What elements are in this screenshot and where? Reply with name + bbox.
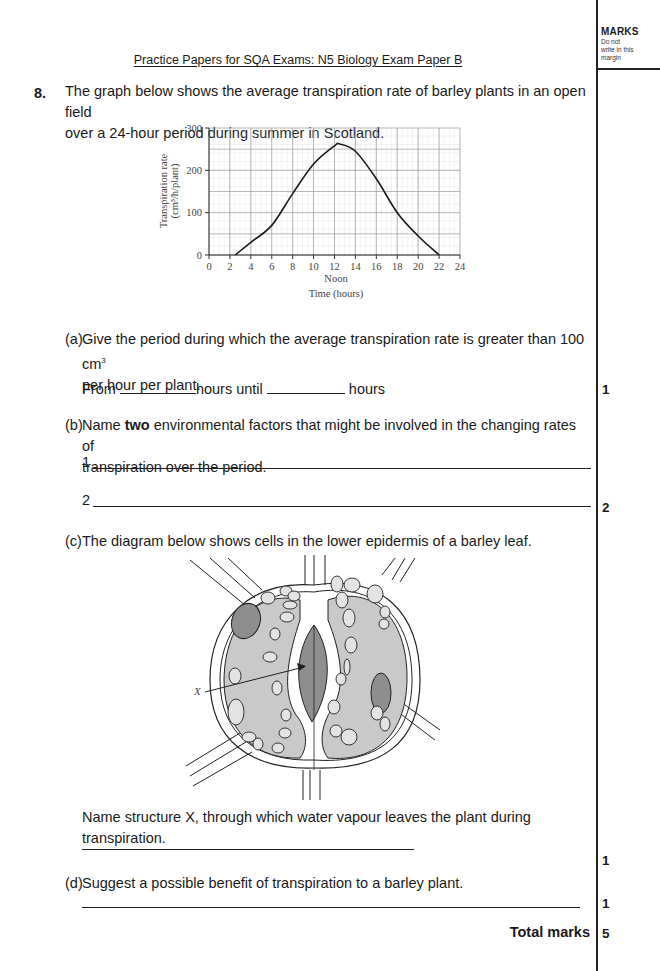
svg-text:0: 0 — [206, 261, 211, 272]
x-axis-ticks: 024681012141618202224 — [206, 255, 466, 272]
svg-text:16: 16 — [371, 261, 382, 272]
svg-text:22: 22 — [434, 261, 445, 272]
end-hours-input[interactable] — [267, 379, 345, 394]
part-b-text: Name — [82, 417, 125, 433]
svg-text:100: 100 — [186, 207, 202, 218]
answer-1-line[interactable] — [93, 468, 591, 469]
part-b-label: (b) — [65, 417, 83, 433]
stem-line: The graph below shows the average transp… — [65, 81, 595, 123]
svg-text:2: 2 — [227, 261, 232, 272]
answer-1-number: 1 — [82, 452, 90, 473]
marks-note: Do not write in this margin — [601, 38, 657, 62]
stomata-diagram: X — [160, 555, 480, 800]
total-marks-label: Total marks — [480, 924, 590, 940]
transpiration-chart: 0100200300 024681012141618202224 Noon Ti… — [140, 118, 480, 318]
part-d-label: (d) — [65, 875, 83, 891]
part-d-marks: 1 — [602, 896, 610, 911]
emphasis-two: two — [125, 417, 150, 433]
svg-text:24: 24 — [455, 261, 466, 272]
svg-text:300: 300 — [186, 123, 202, 134]
page-header: Practice Papers for SQA Exams: N5 Biolog… — [0, 53, 596, 67]
svg-text:18: 18 — [392, 261, 403, 272]
marks-note-line: Do not — [601, 38, 657, 46]
x-axis-noon-label: Noon — [324, 273, 348, 284]
marks-note-line: write in this — [601, 46, 657, 54]
page-title: Practice Papers for SQA Exams: N5 Biolog… — [134, 53, 463, 67]
marks-heading: MARKS — [601, 26, 639, 37]
svg-text:0: 0 — [197, 250, 202, 261]
from-label: From — [82, 381, 116, 397]
part-a-text: Give the period during which the average… — [82, 331, 584, 372]
x-axis-label: Time (hours) — [309, 288, 364, 300]
svg-text:4: 4 — [248, 261, 254, 272]
svg-text:14: 14 — [350, 261, 361, 272]
total-marks-value: 5 — [602, 926, 610, 941]
svg-text:10: 10 — [308, 261, 319, 272]
answer-2-number: 2 — [82, 490, 90, 511]
svg-text:12: 12 — [329, 261, 340, 272]
part-a-marks: 1 — [602, 382, 610, 397]
hours-until-label: hours until — [196, 381, 263, 397]
y-axis-label: Transpiration rate — [158, 153, 169, 228]
part-b-text: environmental factors that might be invo… — [82, 417, 576, 454]
svg-text:200: 200 — [186, 165, 202, 176]
part-c-answer-line[interactable] — [82, 849, 414, 850]
answer-2-line[interactable] — [93, 506, 591, 507]
part-c-marks: 1 — [602, 853, 610, 868]
y-axis-ticks: 0100200300 — [186, 123, 209, 261]
question-number: 8. — [34, 85, 46, 101]
marks-header-rule — [597, 68, 660, 70]
hours-label: hours — [349, 381, 385, 397]
part-d-answer-line[interactable] — [82, 907, 580, 908]
superscript: 3 — [101, 356, 105, 365]
start-hours-input[interactable] — [120, 379, 196, 394]
stoma-pore — [299, 625, 328, 722]
marks-margin-divider — [596, 0, 598, 971]
marks-note-line: margin — [601, 54, 657, 62]
part-a-label: (a) — [65, 331, 83, 347]
part-c-question: Name structure X, through which water va… — [82, 807, 592, 849]
part-c-intro: The diagram below shows cells in the low… — [82, 531, 592, 552]
svg-text:6: 6 — [269, 261, 274, 272]
svg-text:8: 8 — [290, 261, 295, 272]
part-d-question: Suggest a possible benefit of transpirat… — [82, 873, 592, 894]
part-c-label: (c) — [65, 533, 82, 549]
svg-text:20: 20 — [413, 261, 424, 272]
part-b-marks: 2 — [602, 500, 610, 515]
label-x: X — [193, 685, 202, 697]
y-axis-units: (cm³/h/plant) — [169, 163, 181, 219]
part-a-answer-row: From hours until hours — [82, 379, 385, 400]
